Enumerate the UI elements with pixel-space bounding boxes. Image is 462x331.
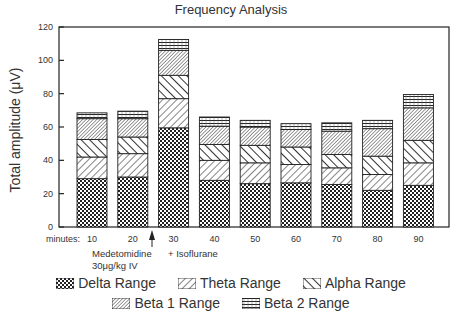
bar-segment — [199, 117, 229, 126]
beta2-swatch-icon — [242, 298, 260, 309]
bar-segment — [322, 123, 352, 131]
bar-stack — [159, 40, 189, 228]
legend-item-beta1: Beta 1 Range — [112, 295, 220, 311]
bar-segment — [403, 163, 433, 186]
bar-segment — [322, 131, 352, 154]
bar-segment — [363, 175, 393, 191]
bar-segment — [159, 75, 189, 98]
bar-segment — [363, 120, 393, 128]
bar-segment — [118, 154, 148, 177]
legend-label-delta: Delta Range — [78, 275, 156, 291]
annotation-dose: 30μg/kg IV — [92, 260, 138, 271]
bar-stack — [281, 124, 311, 227]
bar-segment — [363, 129, 393, 157]
bar-stack — [199, 117, 229, 227]
legend-item-beta2: Beta 2 Range — [242, 295, 350, 311]
bar-segment — [403, 95, 433, 108]
legend-item-alpha: Alpha Range — [303, 275, 406, 291]
legend-row-1: Delta Range Theta Range Alpha Range — [0, 273, 462, 293]
x-tick-label: 70 — [332, 234, 342, 244]
bar-segment — [403, 140, 433, 163]
bar-segment — [77, 119, 107, 140]
bar-stack — [240, 120, 270, 227]
bar-stack — [77, 113, 107, 227]
y-tick-label: 80 — [43, 89, 53, 99]
x-tick-label: 80 — [373, 234, 383, 244]
bar-segment — [199, 126, 229, 144]
x-tick-label: 50 — [250, 234, 260, 244]
legend-label-beta2: Beta 2 Range — [264, 295, 350, 311]
arrow-up-icon — [149, 230, 155, 247]
x-tick-labels: minutes:102030405060708090 — [46, 234, 423, 244]
bar-segment — [118, 137, 148, 154]
bar-segment — [159, 99, 189, 128]
bar-segment — [322, 185, 352, 228]
alpha-swatch-icon — [303, 278, 321, 289]
legend-item-delta: Delta Range — [56, 275, 156, 291]
y-tick-label: 100 — [38, 55, 53, 65]
theta-swatch-icon — [178, 278, 196, 289]
bar-segment — [159, 40, 189, 51]
bar-segment — [159, 128, 189, 227]
x-tick-label: 90 — [413, 234, 423, 244]
y-tick-label: 0 — [48, 222, 53, 232]
annotation-drug: Medetomidine — [92, 248, 152, 259]
legend-label-theta: Theta Range — [200, 275, 281, 291]
bar-segment — [240, 120, 270, 127]
bar-segment — [363, 156, 393, 174]
bar-segment — [281, 147, 311, 165]
legend-label-alpha: Alpha Range — [325, 275, 406, 291]
bar-segment — [322, 155, 352, 168]
legend-label-beta1: Beta 1 Range — [134, 295, 220, 311]
bar-segment — [322, 168, 352, 185]
x-tick-label: 60 — [291, 234, 301, 244]
bar-segment — [159, 50, 189, 75]
bar-segment — [403, 185, 433, 227]
bar-segment — [199, 145, 229, 161]
legend-row-2: Beta 1 Range Beta 2 Range — [0, 293, 462, 313]
legend-item-theta: Theta Range — [178, 275, 281, 291]
bar-segment — [281, 183, 311, 227]
bar-segment — [118, 119, 148, 137]
x-tick-label: 20 — [128, 234, 138, 244]
bar-segment — [118, 177, 148, 227]
delta-swatch-icon — [56, 278, 74, 289]
bar-segment — [281, 124, 311, 130]
bar-stack — [403, 95, 433, 228]
bar-stack — [118, 111, 148, 227]
bar-segment — [403, 108, 433, 141]
bar-segment — [240, 145, 270, 163]
bar-segment — [281, 165, 311, 183]
x-axis-prefix: minutes: — [46, 234, 80, 244]
bar-segment — [240, 184, 270, 227]
bar-segment — [240, 163, 270, 184]
y-tick-label: 20 — [43, 189, 53, 199]
beta1-swatch-icon — [112, 298, 130, 309]
legend: Delta Range Theta Range Alpha Range Beta… — [0, 273, 462, 313]
y-tick-label: 60 — [43, 122, 53, 132]
bar-segment — [118, 111, 148, 119]
bar-segment — [77, 113, 107, 119]
bar-segment — [77, 157, 107, 179]
y-tick-label: 120 — [38, 22, 53, 32]
x-tick-label: 40 — [209, 234, 219, 244]
bar-stack — [322, 123, 352, 227]
bar-segment — [199, 180, 229, 227]
bar-segment — [77, 179, 107, 227]
y-tick-label: 40 — [43, 155, 53, 165]
x-tick-label: 10 — [87, 234, 97, 244]
bar-segment — [363, 190, 393, 227]
bar-segment — [199, 160, 229, 180]
bar-segment — [281, 130, 311, 148]
bar-segment — [77, 140, 107, 158]
x-tick-label: 30 — [169, 234, 179, 244]
bar-segment — [240, 127, 270, 145]
bar-group — [77, 40, 433, 228]
bar-stack — [363, 120, 393, 227]
annotation-isoflurane: + Isoflurane — [168, 248, 218, 259]
